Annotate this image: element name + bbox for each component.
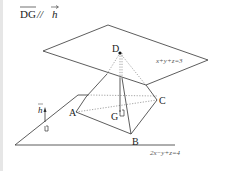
point-g-label: G bbox=[111, 111, 118, 122]
right-angle-h-icon bbox=[45, 126, 48, 131]
title-separator: // bbox=[36, 8, 44, 20]
point-c-label: C bbox=[159, 95, 166, 106]
title-dg: DG bbox=[20, 8, 36, 20]
right-angle-g-icon bbox=[120, 110, 124, 116]
upper-plane-equation: x+y+z=3 bbox=[155, 57, 183, 65]
upper-plane bbox=[43, 25, 208, 85]
title-h: h bbox=[52, 8, 58, 20]
vector-h: h bbox=[38, 104, 48, 131]
point-b-label: B bbox=[132, 136, 139, 147]
point-a-label: A bbox=[69, 107, 77, 118]
lower-plane-equation: 2x−y+z=4 bbox=[150, 149, 181, 157]
geometry-diagram: DG // h 2x−y+z=4 x+y+z=3 bbox=[0, 0, 227, 171]
title-formula: DG // h bbox=[20, 6, 59, 21]
arrow-up-icon bbox=[44, 107, 47, 112]
vector-h-label: h bbox=[38, 105, 43, 115]
point-d-label: D bbox=[112, 43, 119, 54]
